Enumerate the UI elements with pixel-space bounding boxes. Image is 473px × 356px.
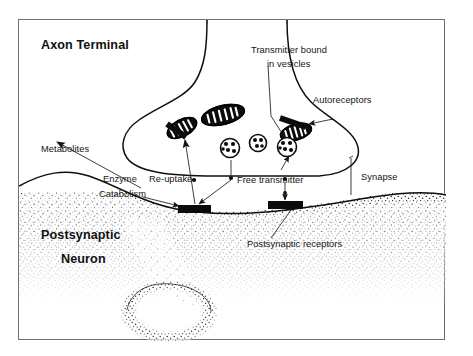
- label-postsynaptic-receptors: Postsynaptic receptors: [247, 239, 342, 249]
- vesicle: [250, 135, 267, 152]
- nucleus: [115, 276, 225, 341]
- label-synapse: Synapse: [361, 172, 398, 182]
- postsynaptic-receptor: [268, 201, 303, 209]
- label-autoreceptors: Autoreceptors: [313, 95, 372, 105]
- autoreceptor-band: [280, 118, 306, 127]
- postsynaptic-receptor: [178, 205, 211, 213]
- label-reuptake: Re-uptake: [149, 174, 192, 184]
- vesicle: [278, 138, 297, 157]
- label-transmitter-bound-line2: in vesicles: [267, 59, 311, 69]
- axon-stalk-top: [207, 20, 287, 24]
- label-free-transmitter: Free transmitter: [237, 175, 303, 185]
- postsynaptic-membrane: [19, 172, 446, 320]
- vesicles-group: [221, 135, 297, 158]
- label-transmitter-bound-line1: Transmitter bound: [251, 45, 327, 55]
- label-axon-terminal: Axon Terminal: [41, 38, 129, 52]
- label-catabolism: Catabolism: [99, 189, 146, 199]
- mitochondrion: [199, 100, 246, 129]
- figure-frame: Axon Terminal Transmitter bound in vesic…: [18, 19, 445, 340]
- label-metabolites: Metabolites: [41, 144, 89, 154]
- label-enzyme: Enzyme: [103, 174, 137, 184]
- synapse-diagram: Axon Terminal Transmitter bound in vesic…: [19, 20, 446, 341]
- label-postsynaptic-neuron-line2: Neuron: [61, 252, 106, 266]
- vesicle: [221, 139, 240, 158]
- label-postsynaptic-neuron-line1: Postsynaptic: [41, 228, 121, 242]
- figure-page: Axon Terminal Transmitter bound in vesic…: [0, 0, 473, 356]
